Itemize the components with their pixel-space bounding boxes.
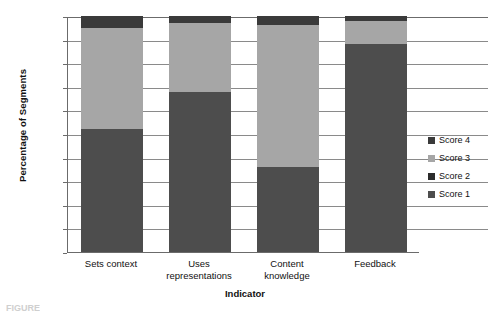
chart-legend: Score 4Score 3Score 2Score 1 xyxy=(428,131,488,203)
legend-swatch-icon xyxy=(428,137,435,144)
legend-swatch-icon xyxy=(428,173,435,180)
y-axis-title: Percentage of Segments xyxy=(17,16,28,236)
legend-item[interactable]: Score 2 xyxy=(428,167,488,185)
bar-segment xyxy=(81,16,143,28)
legend-item[interactable]: Score 3 xyxy=(428,149,488,167)
bar-stack xyxy=(345,16,407,252)
bar-segment xyxy=(169,92,231,252)
figure-caption: FIGURE xyxy=(6,303,40,313)
bar-segment xyxy=(169,16,231,23)
x-axis-tick-label-line: knowledge xyxy=(232,270,342,282)
bar-segment xyxy=(81,129,143,252)
bar-stack xyxy=(257,16,319,252)
legend-label: Score 4 xyxy=(439,135,470,145)
y-axis-tick-mark xyxy=(63,253,67,254)
plot-area xyxy=(67,17,419,253)
bar-segment xyxy=(257,167,319,252)
bar-segment xyxy=(169,23,231,91)
bar-segment xyxy=(345,44,407,252)
x-axis-title: Indicator xyxy=(0,288,490,299)
bar-segment xyxy=(345,21,407,45)
bar-segment xyxy=(81,28,143,129)
x-axis-tick-label-line: Feedback xyxy=(320,258,430,270)
stacked-bar-chart-figure: Percentage of Segments 0%10%20%30%40%50%… xyxy=(0,0,490,313)
legend-label: Score 3 xyxy=(439,153,470,163)
legend-item[interactable]: Score 4 xyxy=(428,131,488,149)
bar-segment xyxy=(345,16,407,21)
legend-item[interactable]: Score 1 xyxy=(428,185,488,203)
bar-stack xyxy=(81,16,143,252)
bar-stack xyxy=(169,16,231,252)
legend-swatch-icon xyxy=(428,155,435,162)
legend-label: Score 1 xyxy=(439,189,470,199)
legend-swatch-icon xyxy=(428,191,435,198)
legend-label: Score 2 xyxy=(439,171,470,181)
bar-segment xyxy=(257,25,319,167)
x-axis-tick-label: Feedback xyxy=(320,258,430,270)
bar-segment xyxy=(257,16,319,25)
